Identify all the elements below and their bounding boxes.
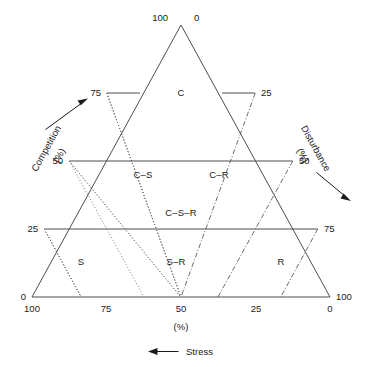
right-axis-arrow-shaft <box>317 173 346 197</box>
zone-label-c: C <box>177 87 184 98</box>
bottom-axis-tick-50: 50 <box>176 303 187 314</box>
stress-arrowhead-icon <box>148 348 158 355</box>
zone-label-c-r: C–R <box>209 169 229 180</box>
zone-label-c-s-r: C–S–R <box>165 207 197 218</box>
zone-label-c-s: C–S <box>133 169 152 180</box>
bottom-axis-caption-group: Stress <box>148 346 213 357</box>
left-axis-arrow-shaft <box>46 103 83 130</box>
left-axis-arrowhead-icon <box>78 99 89 106</box>
left-axis-tick-75: 75 <box>90 87 101 98</box>
left-axis-title-group: Competition (%) <box>29 99 88 174</box>
bottom-right-vertex-right-label: 100 <box>336 291 352 302</box>
dashdot-par-left-75 <box>181 93 255 297</box>
dotted-par-right-25 <box>44 229 81 297</box>
bottom-left-vertex-left-label: 0 <box>21 291 26 302</box>
stress-caption-label: Stress <box>186 346 213 357</box>
right-axis-arrowhead-icon <box>341 194 352 201</box>
zone-label-r: R <box>277 256 284 267</box>
right-axis-tick-75: 75 <box>324 223 335 234</box>
bottom-axis-tick-0: 0 <box>327 303 332 314</box>
grid-dashdot-family <box>181 93 318 297</box>
bottom-axis-unit-label: (%) <box>174 321 189 332</box>
bottom-axis-tick-100: 100 <box>24 303 40 314</box>
right-axis-tick-25: 25 <box>261 87 272 98</box>
ternary-diagram-figure: 100 0 0 100 75 50 25 25 50 75 100 75 50 … <box>0 0 367 367</box>
bottom-axis-tick-25: 25 <box>251 303 262 314</box>
apex-left-label: 100 <box>152 12 168 23</box>
zone-label-s-r: S–R <box>166 256 185 267</box>
ternary-plot-svg: 100 0 0 100 75 50 25 25 50 75 100 75 50 … <box>0 0 367 367</box>
apex-right-label: 0 <box>194 12 199 23</box>
left-axis-tick-25: 25 <box>27 223 38 234</box>
zone-label-s: S <box>78 256 85 267</box>
right-axis-title-group: Disturbance (%) <box>295 123 351 201</box>
dashdot-par-left-25 <box>281 229 318 297</box>
bottom-axis-tick-75: 75 <box>101 303 112 314</box>
